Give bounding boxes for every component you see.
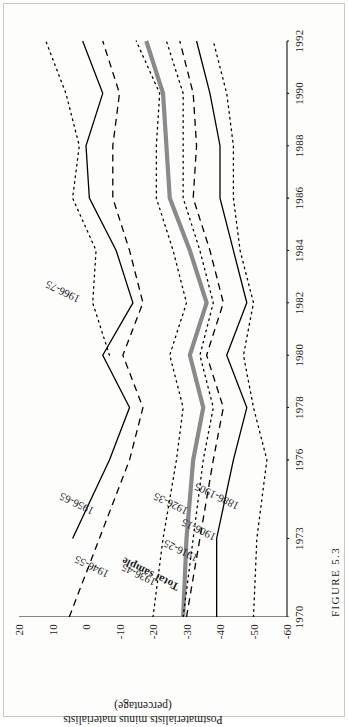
x-tick-label: 1988: [293, 134, 305, 157]
x-tick-label: 1980: [293, 344, 305, 367]
series-line: [73, 41, 133, 538]
series-lines: [19, 39, 289, 617]
x-tick-label: 1973: [293, 527, 305, 550]
rotated-figure-wrapper: 20100-10-20-30-40-50-60 1970197319761978…: [9, 15, 339, 705]
x-tick-label: 1976: [293, 449, 305, 472]
y-tick-label: -40: [214, 624, 226, 639]
y-tick-label: -50: [248, 624, 260, 639]
y-axis-title-line1: Postmaterialists minus materialists: [63, 714, 223, 726]
series-line: [46, 41, 110, 355]
series-line: [136, 41, 186, 617]
y-tick-label: -60: [281, 624, 293, 639]
y-axis-title-line2: (percentage): [0, 699, 293, 713]
series-line: [213, 41, 267, 617]
x-tick-label: 1986: [293, 187, 305, 210]
series-line: [69, 41, 143, 617]
x-tick-label: 1992: [293, 30, 305, 53]
y-axis-title: Postmaterialists minus materialists (per…: [0, 699, 293, 727]
y-tick-label: -30: [181, 624, 193, 639]
plot-area: 20100-10-20-30-40-50-60 1970197319761978…: [19, 41, 287, 617]
x-tick-label: 1990: [293, 82, 305, 105]
y-tick-label: -20: [147, 624, 159, 639]
x-tick-label: 1970: [293, 606, 305, 629]
figure-5-3: 20100-10-20-30-40-50-60 1970197319761978…: [9, 15, 339, 705]
x-tick-label: 1982: [293, 291, 305, 314]
x-tick-label: 1984: [293, 239, 305, 262]
y-tick-label: 20: [13, 624, 25, 635]
y-tick-label: 0: [80, 624, 92, 630]
y-tick-label: -10: [114, 624, 126, 639]
y-tick-label: 10: [47, 624, 59, 635]
x-tick-label: 1978: [293, 396, 305, 419]
figure-caption: FIGURE 5.3: [329, 547, 341, 617]
